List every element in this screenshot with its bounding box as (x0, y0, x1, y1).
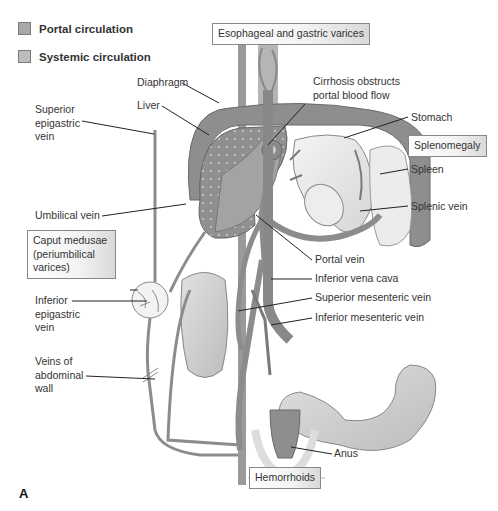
label-anus: Anus (334, 447, 358, 461)
caput-line-2: (periumbilical (33, 248, 110, 262)
label-diaphragm: Diaphragm (137, 76, 188, 90)
ascending-colon (181, 273, 228, 378)
caput-medusae-illustration (132, 282, 168, 318)
esophageal-varices-box: Esophageal and gastric varices (212, 23, 370, 45)
label-cirrhosis: Cirrhosis obstructs portal blood flow (313, 75, 400, 102)
label-superior-epigastric: Superior epigastric vein (35, 103, 80, 144)
splenomegaly-box: Splenomegaly (408, 135, 487, 157)
legend-systemic-label: Systemic circulation (39, 51, 151, 63)
legend-systemic: Systemic circulation (18, 50, 151, 63)
portal-swatch (18, 22, 31, 35)
label-splenic-vein: Splenic vein (411, 200, 468, 214)
label-abdominal-wall: Veins of abdominal wall (35, 355, 83, 396)
spleen (370, 146, 412, 246)
legend-portal-label: Portal circulation (39, 23, 133, 35)
legend-portal: Portal circulation (18, 22, 133, 35)
panel-letter: A (19, 486, 28, 501)
hemorrhoids-box: Hemorrhoids (249, 467, 321, 489)
systemic-swatch (18, 50, 31, 63)
label-stomach: Stomach (411, 111, 452, 125)
label-ivc: Inferior vena cava (315, 272, 398, 286)
caput-line-1: Caput medusae (33, 234, 110, 248)
stomach (290, 135, 372, 233)
label-spleen: Spleen (411, 163, 444, 177)
caput-medusae-box: Caput medusae (periumbilical varices) (27, 230, 116, 279)
label-inferior-epigastric: Inferior epigastric vein (35, 294, 80, 335)
label-umbilical-vein: Umbilical vein (35, 209, 100, 223)
label-imv: Inferior mesenteric vein (315, 311, 424, 325)
caput-line-3: varices) (33, 261, 110, 275)
descending-colon (279, 365, 436, 450)
label-liver: Liver (137, 99, 160, 113)
rectum (270, 410, 300, 458)
label-portal-vein: Portal vein (315, 253, 365, 267)
label-smv: Superior mesenteric vein (315, 291, 431, 305)
